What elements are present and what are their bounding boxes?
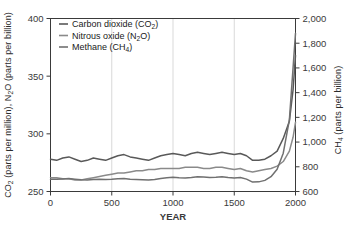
legend-label-2: Methane (CH4) (72, 42, 132, 53)
x-tick-label-1500: 1500 (224, 197, 245, 208)
x-axis-title: YEAR (160, 211, 187, 222)
chart-page: 250300350400 6008001,0001,2001,4001,6001… (0, 0, 353, 239)
greenhouse-gas-line-chart: 250300350400 6008001,0001,2001,4001,6001… (0, 0, 353, 239)
left-tick-label-350: 350 (28, 71, 44, 82)
x-tick-label-500: 500 (104, 197, 120, 208)
right-tick-label-1800: 1,800 (303, 38, 327, 49)
left-tick-label-250: 250 (28, 186, 44, 197)
x-tick-label-2000: 2000 (285, 197, 306, 208)
left-tick-label-300: 300 (28, 128, 44, 139)
right-tick-label-1000: 1,000 (303, 136, 327, 147)
right-tick-label-1400: 1,400 (303, 87, 327, 98)
right-tick-label-600: 600 (303, 186, 319, 197)
right-tick-label-1200: 1,200 (303, 112, 327, 123)
right-tick-label-1600: 1,600 (303, 62, 327, 73)
legend-label-0: Carbon dioxide (CO2) (72, 19, 158, 30)
left-axis-title: CO2 (parts per million), N2O (parts per … (3, 12, 14, 198)
x-tick-label-0: 0 (48, 197, 53, 208)
right-tick-label-800: 800 (303, 161, 319, 172)
right-tick-label-2000: 2,000 (303, 13, 327, 24)
left-tick-label-400: 400 (28, 13, 44, 24)
x-tick-label-1000: 1000 (162, 197, 183, 208)
